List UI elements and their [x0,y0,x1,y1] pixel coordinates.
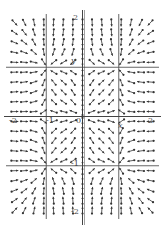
direction-arrow [20,140,28,143]
direction-arrow [30,120,38,123]
direction-arrow [147,110,155,112]
direction-arrow [11,30,18,35]
direction-arrow [108,137,113,144]
direction-arrow [81,187,83,195]
direction-arrow [147,140,155,143]
direction-arrow [129,207,132,215]
direction-arrow [138,39,145,44]
direction-arrow [137,140,145,143]
direction-arrow [30,110,38,113]
direction-arrow [60,119,68,122]
direction-arrow [147,61,155,64]
direction-arrow [71,147,76,154]
direction-arrow [62,207,65,215]
direction-arrow [70,110,78,114]
direction-arrow [138,29,143,36]
direction-arrow [88,110,96,114]
direction-arrow [70,99,76,105]
direction-arrow [10,40,18,44]
direction-arrow [62,177,66,185]
direction-arrow [110,38,113,46]
direction-arrow [61,80,67,86]
y-tick-neg1: -1 [71,160,79,168]
direction-arrow [147,169,155,172]
direction-arrow [60,128,67,133]
direction-arrow [11,19,17,25]
direction-arrow [30,178,36,184]
direction-arrow [129,187,133,194]
direction-arrow [81,146,83,154]
direction-arrow [70,168,76,174]
direction-arrow [147,198,154,203]
direction-arrow [128,139,136,143]
direction-arrow [128,80,136,84]
direction-arrow [98,169,105,174]
direction-arrow [120,207,122,215]
direction-arrow [91,38,94,46]
direction-arrow [89,137,94,144]
direction-arrow [110,197,113,205]
direction-arrow [10,91,18,94]
direction-arrow [120,147,124,155]
direction-arrow [72,28,75,36]
direction-arrow [71,38,74,46]
direction-arrow [81,79,83,87]
direction-arrow [20,71,28,74]
direction-arrow [52,187,55,195]
direction-arrow [108,147,113,154]
direction-arrow [127,71,135,74]
direction-arrow [97,119,105,122]
direction-arrow [89,99,95,105]
direction-arrow [110,18,113,26]
direction-arrow [129,197,133,205]
direction-arrow [11,198,18,203]
direction-arrow [88,119,96,123]
direction-arrow [30,80,38,84]
direction-arrow [139,19,143,26]
direction-arrow [147,51,155,54]
direction-arrow [71,79,76,86]
direction-arrow [22,207,26,214]
direction-arrow [108,89,113,96]
direction-arrow [148,208,154,214]
direction-arrow [128,90,136,94]
direction-arrow [10,100,18,103]
direction-arrow [81,207,83,215]
direction-arrow [10,130,18,133]
x-axis-label: x [118,122,123,130]
direction-arrow [51,79,56,86]
direction-arrow [89,147,94,154]
direction-arrow [90,177,94,185]
direction-arrow [20,159,28,162]
direction-arrow [42,48,45,56]
direction-arrow [148,19,154,25]
direction-arrow [120,187,123,195]
direction-arrow [81,88,83,96]
direction-arrow [120,197,123,205]
direction-arrow [30,71,38,74]
direction-arrow [52,177,56,185]
direction-arrow [107,70,114,75]
direction-arrow [43,18,45,26]
direction-arrow [147,71,155,73]
direction-arrow [147,40,155,44]
x-tick-neg2: -2 [9,117,17,125]
direction-arrow [100,187,103,195]
direction-arrow [137,50,145,54]
direction-arrow [20,100,28,103]
direction-arrow [71,187,74,195]
direction-arrow [127,60,135,63]
direction-arrow [119,99,123,106]
direction-arrow [43,207,45,215]
direction-arrow [20,90,28,93]
direction-arrow [98,89,104,95]
direction-arrow [127,129,135,132]
direction-arrow [52,18,55,26]
direction-arrow [137,100,145,103]
direction-arrow [41,168,46,175]
direction-arrow [129,18,132,26]
direction-arrow [81,108,83,116]
direction-arrow [139,207,143,214]
direction-arrow [98,59,105,64]
direction-arrow [60,169,67,174]
